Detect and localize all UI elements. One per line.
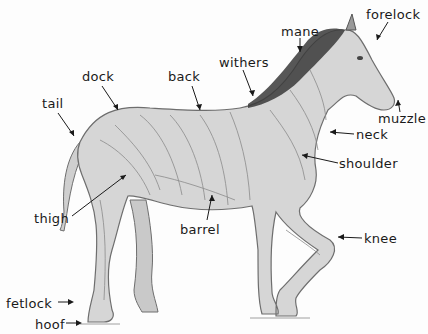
label-forelock: forelock: [366, 8, 420, 21]
label-tail: tail: [42, 97, 64, 110]
label-dock: dock: [82, 70, 114, 83]
label-back: back: [168, 70, 200, 83]
label-fetlock: fetlock: [6, 297, 52, 310]
horse-eye: [357, 56, 363, 60]
label-shoulder: shoulder: [339, 157, 398, 170]
label-mane: mane: [281, 25, 319, 38]
label-knee: knee: [364, 232, 397, 245]
label-thigh: thigh: [34, 212, 69, 225]
horse-ear: [346, 14, 356, 30]
horse-far-hind-leg: [130, 200, 158, 312]
label-hoof: hoof: [35, 318, 65, 331]
label-barrel: barrel: [180, 223, 220, 236]
label-muzzle: muzzle: [378, 112, 426, 125]
label-withers: withers: [219, 56, 269, 69]
horse-anatomy-diagram: forelock mane withers dock back tail muz…: [0, 0, 428, 334]
label-neck: neck: [356, 128, 388, 141]
